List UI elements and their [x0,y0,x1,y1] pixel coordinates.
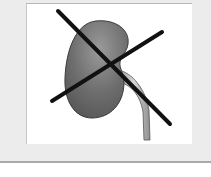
kidney-icon [65,21,128,118]
crossed-kidney-illustration [0,0,211,177]
